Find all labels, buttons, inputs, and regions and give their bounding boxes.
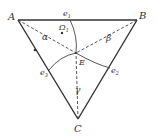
label-E: E (78, 58, 85, 67)
label-omega: Ω1 (58, 23, 69, 33)
marker-dot-omega (61, 32, 63, 34)
arc-e3 (49, 53, 76, 70)
label-e1: e1 (63, 9, 71, 19)
marker-dot-AC (34, 49, 37, 52)
point-E-dot (75, 52, 77, 54)
label-alpha: α (42, 32, 48, 42)
label-e2: e2 (111, 66, 119, 76)
arc-e1 (70, 20, 76, 53)
label-C: C (74, 123, 82, 134)
label-e3: e3 (40, 68, 48, 78)
label-B: B (138, 10, 146, 21)
label-A: A (7, 11, 15, 22)
triangle-diagram: A B C E e1 e2 e3 α β γ Ω1 (0, 0, 157, 137)
label-gamma: γ (75, 85, 81, 95)
label-beta: β (105, 33, 111, 43)
